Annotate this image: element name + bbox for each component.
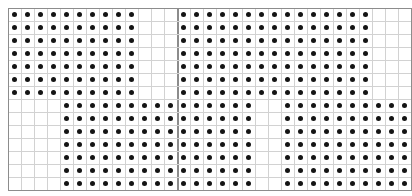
grid-dot <box>389 129 394 134</box>
grid-dot <box>298 129 303 134</box>
grid-dot <box>298 103 303 108</box>
grid-dot <box>376 181 381 186</box>
grid-dot <box>285 129 290 134</box>
grid-dot <box>376 168 381 173</box>
grid-dot <box>311 103 316 108</box>
grid-dot <box>402 116 407 121</box>
grid-dot <box>311 155 316 160</box>
grid-dot <box>402 168 407 173</box>
grid-dot <box>337 168 342 173</box>
grid-dot <box>363 116 368 121</box>
grid-dot <box>298 142 303 147</box>
grid-dot <box>389 168 394 173</box>
grid-dot <box>389 155 394 160</box>
grid-dot <box>376 116 381 121</box>
grid-dot <box>311 129 316 134</box>
grid-dot <box>324 129 329 134</box>
grid-dot <box>298 116 303 121</box>
grid-dot <box>376 129 381 134</box>
grid-dot <box>298 181 303 186</box>
grid-dot <box>324 168 329 173</box>
grid-dot <box>402 129 407 134</box>
grid-dot <box>376 103 381 108</box>
grid-dot <box>311 116 316 121</box>
grid-dot <box>337 155 342 160</box>
grid-canvas <box>0 0 412 196</box>
grid-dot <box>298 155 303 160</box>
grid-dot <box>337 116 342 121</box>
grid-dot <box>350 155 355 160</box>
grid-dot <box>337 129 342 134</box>
grid-dot <box>350 116 355 121</box>
grid-dot <box>363 129 368 134</box>
grid-dot <box>350 142 355 147</box>
grid-dot <box>324 142 329 147</box>
dot-matrix-figure <box>0 0 412 196</box>
grid-dot <box>285 116 290 121</box>
grid-dot <box>363 142 368 147</box>
grid-dot <box>324 103 329 108</box>
grid-dot <box>337 103 342 108</box>
grid-dot <box>363 168 368 173</box>
grid-dot <box>389 142 394 147</box>
grid-dot <box>285 155 290 160</box>
grid-dot <box>376 155 381 160</box>
grid-dot <box>402 181 407 186</box>
grid-dot <box>324 181 329 186</box>
grid-dot <box>311 168 316 173</box>
grid-dot <box>376 142 381 147</box>
bottom-right-block <box>0 0 412 196</box>
grid-dot <box>350 129 355 134</box>
grid-dot <box>350 103 355 108</box>
grid-dot <box>337 142 342 147</box>
grid-dot <box>285 103 290 108</box>
grid-dot <box>389 181 394 186</box>
grid-dot <box>363 181 368 186</box>
grid-dot <box>285 181 290 186</box>
grid-dot <box>285 142 290 147</box>
grid-dot <box>311 142 316 147</box>
grid-dot <box>350 181 355 186</box>
grid-dot <box>402 103 407 108</box>
grid-dot <box>324 155 329 160</box>
dot-layer <box>0 0 412 196</box>
grid-dot <box>298 168 303 173</box>
grid-dot <box>363 155 368 160</box>
grid-dot <box>350 168 355 173</box>
grid-dot <box>363 103 368 108</box>
grid-dot <box>389 103 394 108</box>
grid-dot <box>402 142 407 147</box>
grid-dot <box>337 181 342 186</box>
grid-dot <box>285 168 290 173</box>
grid-dot <box>311 181 316 186</box>
grid-dot <box>324 116 329 121</box>
grid-dot <box>389 116 394 121</box>
grid-dot <box>402 155 407 160</box>
